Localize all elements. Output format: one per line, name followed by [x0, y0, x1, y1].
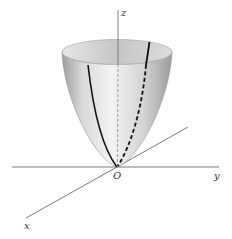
y-axis-label: y — [213, 170, 220, 181]
x-axis-label: x — [24, 220, 30, 231]
paraboloid-surface — [62, 52, 172, 167]
paraboloid-diagram: z y x O — [0, 0, 232, 239]
origin-label: O — [113, 170, 121, 181]
z-axis-label: z — [120, 7, 127, 18]
x-axis — [26, 167, 117, 218]
z-axis-hidden — [118, 64, 119, 166]
